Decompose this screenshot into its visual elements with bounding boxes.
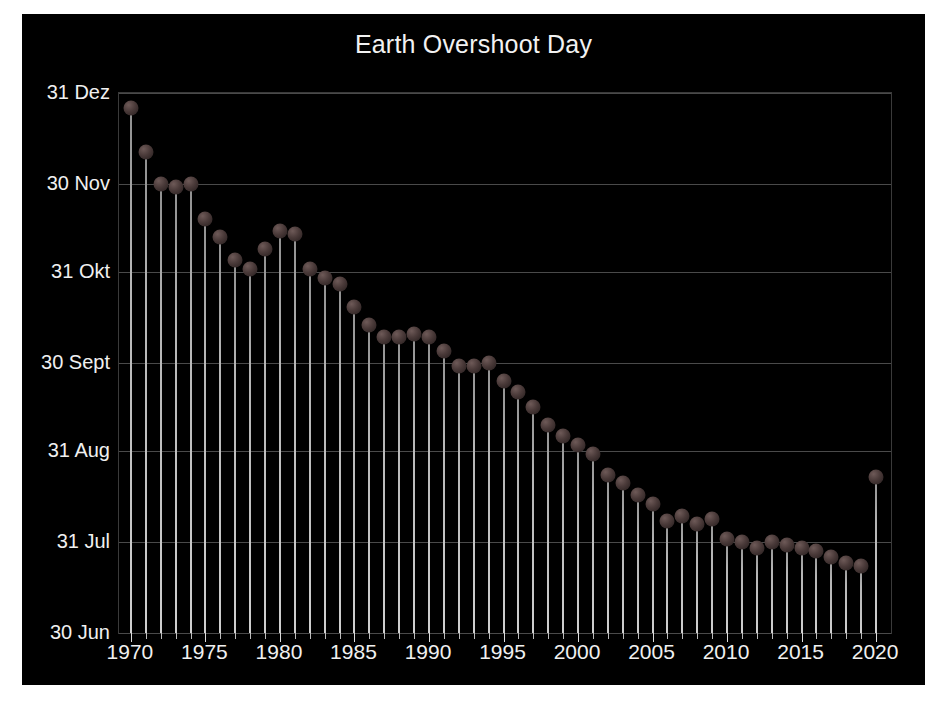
x-axis-tick-mark [235,633,236,639]
data-stem [517,392,519,633]
data-stem [830,557,832,633]
y-axis-tick-label: 31 Okt [51,260,110,283]
data-point-marker [317,270,332,285]
data-stem [875,477,877,633]
data-stem [562,436,564,633]
x-axis-tick-label: 2010 [703,640,750,664]
data-point-marker [541,417,556,432]
data-point-marker [213,229,228,244]
x-axis-tick-mark [414,633,415,639]
data-stem [756,548,758,633]
data-stem [458,366,460,633]
x-axis-tick-mark [325,633,326,639]
x-axis-tick-label: 2020 [852,640,899,664]
data-point-marker [869,470,884,485]
x-axis-tick-mark [146,633,147,639]
data-stem [741,542,743,633]
data-point-marker [675,508,690,523]
x-axis-tick-mark [772,633,773,639]
data-point-marker [243,262,258,277]
data-point-marker [302,262,317,277]
data-point-marker [511,385,526,400]
data-point-marker [690,517,705,532]
data-point-marker [734,535,749,550]
x-axis-tick-mark [444,633,445,639]
x-axis-tick-mark [161,633,162,639]
data-stem [577,445,579,633]
data-point-marker [749,540,764,555]
data-stem [681,516,683,633]
data-stem [801,548,803,633]
data-stem [398,337,400,633]
x-axis-tick-label: 1970 [107,640,154,664]
chart-title: Earth Overshoot Day [22,30,925,59]
data-stem [204,219,206,633]
x-axis-tick-mark [712,633,713,639]
x-axis-tick-mark [831,633,832,639]
data-point-marker [660,514,675,529]
data-point-marker [705,511,720,526]
data-stem [622,483,624,633]
data-point-marker [809,543,824,558]
data-stem [234,260,236,633]
data-stem [339,284,341,633]
data-point-marker [481,356,496,371]
x-axis-tick-mark [310,633,311,639]
x-axis-tick-mark [295,633,296,639]
data-stem [860,566,862,634]
data-stem [130,108,132,633]
data-point-marker [258,241,273,256]
data-point-marker [571,438,586,453]
x-axis-tick-mark [787,633,788,639]
y-axis-tick-label: 30 Nov [47,171,110,194]
data-point-marker [407,326,422,341]
data-stem [473,366,475,633]
data-point-marker [362,317,377,332]
y-axis-tick-label: 31 Jul [57,530,110,553]
data-point-marker [720,532,735,547]
data-stem [294,234,296,633]
gridline-horizontal [119,184,891,185]
data-stem [353,307,355,633]
data-point-marker [183,176,198,191]
data-point-marker [615,476,630,491]
y-axis-labels: 31 Dez30 Nov31 Okt30 Sept31 Aug31 Jul30 … [22,92,110,632]
data-stem [786,545,788,633]
x-axis-tick-mark [176,633,177,639]
data-point-marker [794,540,809,555]
x-axis-tick-label: 2005 [628,640,675,664]
data-stem [711,519,713,633]
x-axis-tick-mark [459,633,460,639]
data-point-marker [123,100,138,115]
data-point-marker [332,276,347,291]
data-stem [145,152,147,633]
data-stem [547,425,549,633]
data-point-marker [168,179,183,194]
data-stem [249,269,251,633]
data-point-marker [764,535,779,550]
x-axis-tick-mark [846,633,847,639]
x-axis-tick-mark [474,633,475,639]
data-stem [696,524,698,633]
data-point-marker [347,300,362,315]
data-stem [532,407,534,633]
x-axis-tick-mark [340,633,341,639]
data-point-marker [779,537,794,552]
data-stem [607,475,609,633]
data-stem [160,184,162,633]
x-axis-tick-mark [697,633,698,639]
data-point-marker [287,226,302,241]
x-axis-tick-mark [742,633,743,639]
x-axis-tick-label: 1985 [330,640,377,664]
data-stem [503,381,505,633]
x-axis-tick-mark [593,633,594,639]
data-point-marker [392,329,407,344]
data-point-marker [600,467,615,482]
x-axis-tick-mark [608,633,609,639]
data-point-marker [496,373,511,388]
x-axis-tick-mark [682,633,683,639]
data-stem [845,563,847,633]
x-axis-tick-mark [191,633,192,639]
data-point-marker [436,344,451,359]
data-stem [383,337,385,633]
